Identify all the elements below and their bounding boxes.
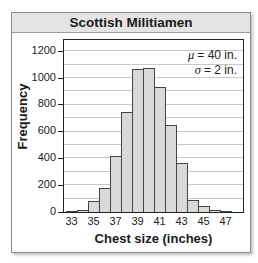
x-tick-label: 37 [106, 215, 126, 227]
x-tick-label: 45 [194, 215, 214, 227]
mean-annotation: μ = 40 in. [188, 48, 237, 63]
y-tick-label: 1000 [16, 71, 56, 83]
mu-symbol: μ [188, 48, 194, 62]
y-tick-label: 600 [16, 124, 56, 136]
sigma-value: = 2 in. [204, 63, 237, 77]
mu-value: = 40 in. [197, 48, 237, 62]
y-tick-label: 1200 [16, 44, 56, 56]
histogram-bar-47 [220, 211, 232, 212]
x-tick-label: 47 [216, 215, 236, 227]
x-tick-label: 33 [62, 215, 82, 227]
y-tick-label: 800 [16, 97, 56, 109]
chart-title: Scottish Militiamen [12, 13, 250, 33]
x-tick-label: 43 [172, 215, 192, 227]
y-tick-label: 0 [16, 205, 56, 217]
chart-card: Scottish Militiamen Frequency 0200400600… [11, 12, 251, 253]
x-tick-label: 39 [128, 215, 148, 227]
sd-annotation: σ = 2 in. [195, 63, 237, 78]
sigma-symbol: σ [195, 63, 201, 77]
plot-area: μ = 40 in. σ = 2 in. [63, 39, 244, 213]
x-axis-label: Chest size (inches) [63, 231, 244, 246]
x-tick-label: 41 [150, 215, 170, 227]
y-tick-label: 400 [16, 151, 56, 163]
y-tick-label: 200 [16, 178, 56, 190]
x-tick-label: 35 [84, 215, 104, 227]
